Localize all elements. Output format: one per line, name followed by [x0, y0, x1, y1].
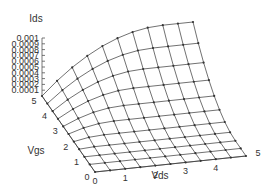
- x-tick-label: 3: [183, 166, 188, 176]
- data-point-marker: [154, 165, 156, 167]
- data-point-marker: [97, 81, 99, 83]
- data-point-marker: [103, 134, 105, 136]
- mesh-line-vds: [163, 25, 216, 159]
- mesh-line-vds: [102, 46, 155, 166]
- mesh-line-vgs: [42, 22, 193, 96]
- data-point-marker: [143, 117, 145, 119]
- data-point-marker: [153, 101, 155, 103]
- data-point-marker: [134, 159, 136, 161]
- data-point-marker: [158, 115, 160, 117]
- data-point-marker: [203, 110, 205, 112]
- data-point-marker: [245, 155, 247, 157]
- data-point-marker: [123, 104, 125, 106]
- data-point-marker: [129, 151, 131, 153]
- data-point-marker: [192, 21, 194, 23]
- data-point-marker: [138, 103, 140, 105]
- data-point-marker: [164, 155, 166, 157]
- data-point-marker: [102, 94, 104, 96]
- data-point-marker: [101, 45, 103, 47]
- data-point-marker: [86, 55, 88, 57]
- data-point-marker: [229, 131, 231, 133]
- data-point-marker: [127, 70, 129, 72]
- data-point-marker: [183, 98, 185, 100]
- surface-mesh: [41, 21, 247, 173]
- data-point-marker: [213, 95, 215, 97]
- x-tick-label: 0: [92, 176, 97, 186]
- data-point-marker: [98, 154, 100, 156]
- data-point-marker: [178, 126, 180, 128]
- data-point-marker: [224, 121, 226, 123]
- data-point-marker: [116, 37, 118, 39]
- mesh-line-vgs: [53, 63, 204, 112]
- data-point-marker: [119, 160, 121, 162]
- mesh-line-vgs: [63, 96, 214, 127]
- data-point-marker: [188, 112, 190, 114]
- data-point-marker: [52, 110, 54, 112]
- data-point-marker: [215, 158, 217, 160]
- data-point-marker: [41, 95, 43, 97]
- data-point-marker: [218, 109, 220, 111]
- data-point-marker: [144, 149, 146, 151]
- data-point-marker: [57, 118, 59, 120]
- data-point-marker: [179, 154, 181, 156]
- data-point-marker: [107, 60, 109, 62]
- data-point-marker: [132, 87, 134, 89]
- data-point-marker: [118, 132, 120, 134]
- data-point-marker: [94, 171, 96, 173]
- data-point-marker: [240, 147, 242, 149]
- data-point-marker: [138, 141, 140, 143]
- data-point-marker: [88, 136, 90, 138]
- data-point-marker: [154, 139, 156, 141]
- data-point-marker: [182, 44, 184, 46]
- data-point-marker: [128, 118, 130, 120]
- data-point-marker: [67, 133, 69, 135]
- data-point-marker: [225, 149, 227, 151]
- data-point-marker: [87, 100, 89, 102]
- data-point-marker: [148, 129, 150, 131]
- data-point-marker: [194, 152, 196, 154]
- data-point-marker: [137, 49, 139, 51]
- data-point-marker: [178, 82, 180, 84]
- x-tick-label: 1: [123, 173, 128, 183]
- data-point-marker: [177, 23, 179, 25]
- data-point-marker: [98, 122, 100, 124]
- data-point-marker: [198, 96, 200, 98]
- data-point-marker: [204, 143, 206, 145]
- data-point-marker: [147, 85, 149, 87]
- axes: 0.00010.00020.00030.00040.00050.00060.00…: [11, 33, 260, 186]
- data-point-marker: [56, 80, 58, 82]
- data-point-marker: [147, 27, 149, 29]
- data-point-marker: [208, 79, 210, 81]
- data-point-marker: [169, 163, 171, 165]
- data-point-marker: [124, 168, 126, 170]
- data-point-marker: [112, 75, 114, 77]
- y-tick-label: 3: [53, 126, 58, 136]
- z-tick-label: 0.001: [16, 33, 39, 43]
- data-point-marker: [46, 103, 48, 105]
- y-tick-label: 2: [63, 142, 68, 152]
- data-point-marker: [185, 161, 187, 163]
- data-point-marker: [108, 144, 110, 146]
- data-point-marker: [203, 61, 205, 63]
- data-point-marker: [219, 141, 221, 143]
- data-point-marker: [230, 157, 232, 159]
- x-axis-label: Vds: [151, 170, 168, 181]
- data-point-marker: [149, 157, 151, 159]
- data-point-marker: [173, 114, 175, 116]
- data-point-marker: [61, 89, 63, 91]
- data-point-marker: [157, 66, 159, 68]
- y-tick-label: 1: [74, 157, 79, 167]
- data-point-marker: [83, 127, 85, 129]
- data-point-marker: [159, 148, 161, 150]
- data-point-marker: [133, 130, 135, 132]
- data-point-marker: [71, 66, 73, 68]
- data-point-marker: [174, 146, 176, 148]
- data-point-marker: [76, 78, 78, 80]
- data-point-marker: [123, 142, 125, 144]
- data-point-marker: [234, 140, 236, 142]
- data-point-marker: [193, 81, 195, 83]
- data-point-marker: [82, 89, 84, 91]
- data-point-marker: [78, 148, 80, 150]
- mesh-line-vds: [193, 22, 246, 156]
- y-axis-label: Vgs: [27, 145, 44, 156]
